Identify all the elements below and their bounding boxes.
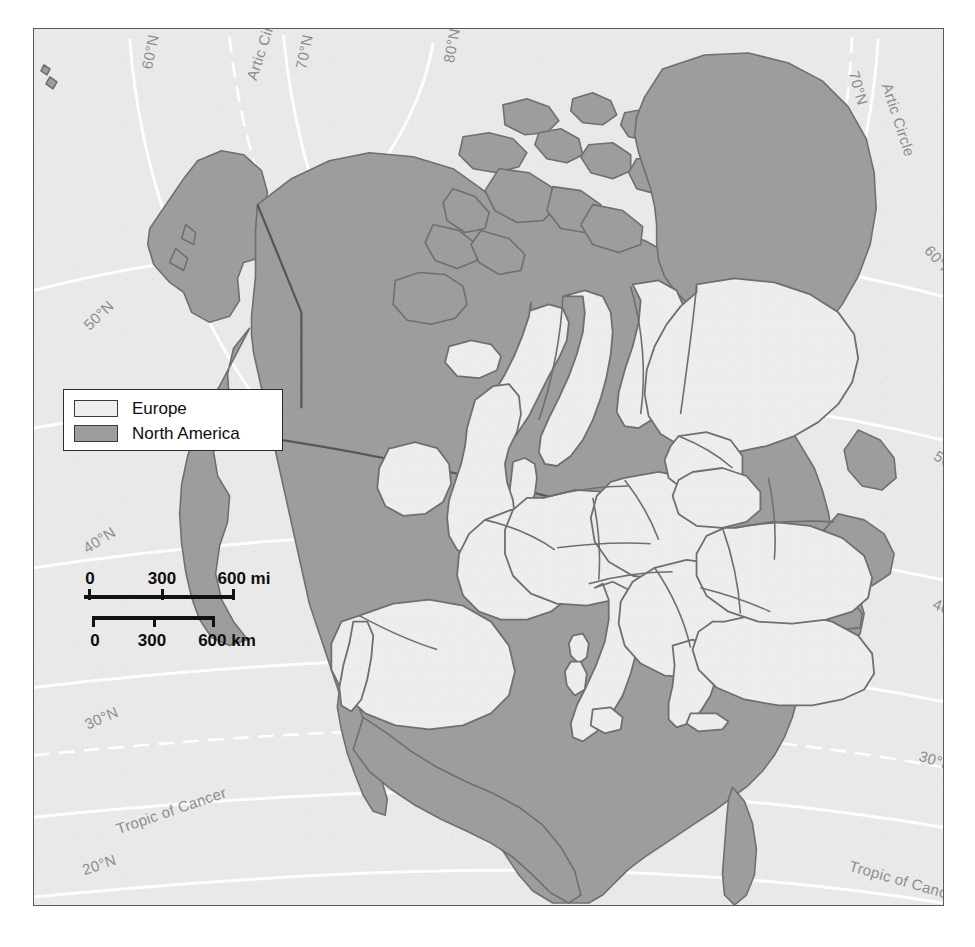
miles-tick-600: 600 mi [218,569,271,589]
miles-bar-tick-mid [161,589,164,600]
km-tick-300: 300 [138,631,166,651]
europe-swatch [74,400,118,417]
km-scale-bar [84,616,294,627]
miles-scale-bar [84,589,294,600]
legend-label-north-america: North America [132,425,240,442]
km-tick-600: 600 km [198,631,256,651]
miles-bar-tick-end [232,589,235,600]
map-legend: Europe North America [63,389,283,451]
north-america-swatch [74,425,118,442]
miles-tick-0: 0 [85,569,94,589]
scale-bars: 0 300 600 mi 0 300 600 km [84,569,294,651]
legend-item-europe: Europe [74,398,272,419]
miles-scale-labels: 0 300 600 mi [84,569,294,589]
km-bar-tick-start [92,616,95,627]
legend-item-north-america: North America [74,423,272,444]
km-scale-labels: 0 300 600 km [84,631,294,651]
km-bar-tick-mid [153,616,156,627]
km-tick-0: 0 [90,631,99,651]
legend-label-europe: Europe [132,400,187,417]
miles-tick-300: 300 [148,569,176,589]
miles-bar-tick-start [88,589,91,600]
km-bar-tick-end [212,616,215,627]
miles-bar-line [84,595,232,599]
map-canvas [34,29,943,905]
map-frame: 60°N Artic Circle 70°N 80°N 50°N 40°N 30… [33,28,944,906]
